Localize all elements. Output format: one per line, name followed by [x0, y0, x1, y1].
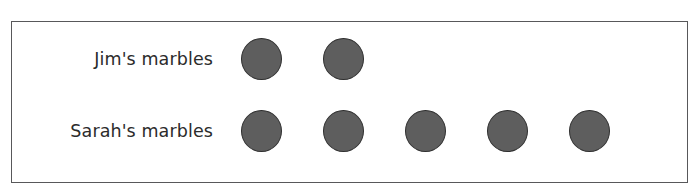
- marble-icon: [241, 110, 282, 152]
- row-label-sarah: Sarah's marbles: [12, 109, 213, 153]
- marble-icon: [569, 110, 610, 152]
- pictograph-row-sarah: Sarah's marbles: [12, 109, 687, 153]
- pictograph-row-jim: Jim's marbles: [12, 37, 687, 81]
- marble-icon: [405, 110, 446, 152]
- marble-icon: [323, 38, 364, 80]
- marble-icon: [323, 110, 364, 152]
- marble-icon: [241, 38, 282, 80]
- row-label-jim: Jim's marbles: [12, 37, 213, 81]
- pictograph-figure: Jim's marbles Sarah's marbles: [0, 0, 700, 189]
- marble-icon: [487, 110, 528, 152]
- figure-frame: Jim's marbles Sarah's marbles: [11, 21, 688, 183]
